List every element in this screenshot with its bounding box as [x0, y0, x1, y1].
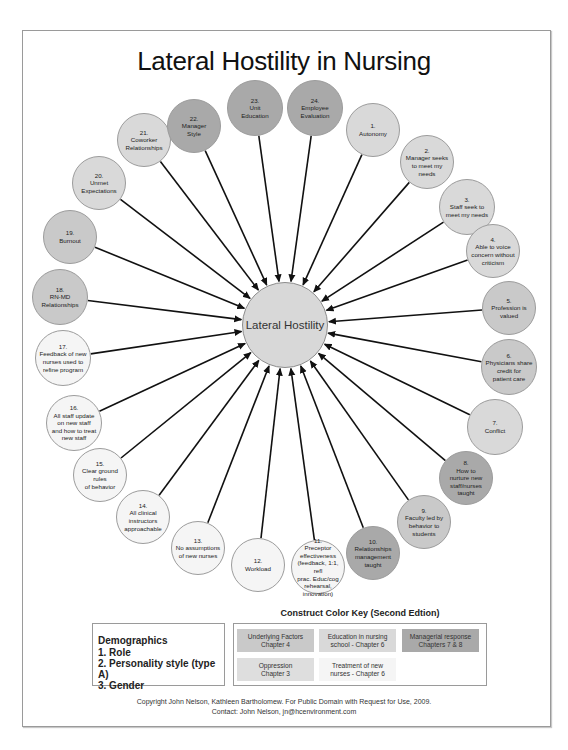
factor-node-1: 1. Autonomy [346, 103, 400, 157]
arrow-link [259, 136, 279, 282]
key-underlying-factors: Underlying Factors Chapter 4 [237, 629, 314, 652]
arrow-link [291, 369, 315, 541]
factor-node-label: 5. Profession is valued [488, 297, 529, 320]
factor-node-23: 23. Unit Education [227, 80, 283, 136]
factor-node-20: 20. Unmet Expectations [72, 156, 126, 210]
factor-node-22: 22. Manager Style [167, 99, 221, 153]
factor-node-label: 17. Feedback of new nurses used to refin… [36, 343, 89, 373]
arrow-link [205, 151, 267, 285]
demographics-item: 2. Personality style (type A) [98, 658, 224, 680]
factor-node-label: 9. Faculty led by behavior to students [402, 507, 446, 537]
arrow-link [208, 366, 269, 523]
center-node-label: Lateral Hostility [246, 319, 325, 331]
copyright-notice: Copyright John Nelson, Kathleen Bartholo… [0, 697, 568, 717]
factor-node-label: 8. How to nurture new staff/nurses taugh… [447, 459, 486, 497]
arrow-link [261, 369, 280, 539]
factor-node-label: 3. Staff seek to meet my needs [443, 196, 491, 219]
factor-node-8: 8. How to nurture new staff/nurses taugh… [439, 451, 493, 505]
arrow-link [319, 353, 446, 460]
factor-node-label: 24. Employee Evaluation [298, 97, 333, 120]
factor-node-label: 12. Workload [242, 557, 274, 572]
factor-node-18: 18. RN-MD Relationships [32, 269, 88, 325]
center-node-lateral-hostility: Lateral Hostility [242, 282, 328, 368]
factor-node-label: 16. All staff update on new staff and ho… [49, 404, 99, 442]
factor-node-label: 11. Preceptor effectiveness (feedback, 1… [292, 537, 344, 598]
factor-node-label: 10. Relationships management taught [351, 538, 394, 568]
factor-node-13: 13. No assumptions of new nurses [171, 521, 225, 575]
factor-node-label: 14. All clinical instructors approachabl… [121, 502, 165, 532]
factor-node-17: 17. Feedback of new nurses used to refin… [35, 330, 91, 386]
factor-node-5: 5. Profession is valued [482, 281, 536, 335]
demographics-heading: Demographics [98, 635, 224, 646]
arrow-link [159, 360, 259, 495]
factor-node-label: 1. Autonomy [356, 122, 390, 137]
factor-node-16: 16. All staff update on new staff and ho… [46, 395, 102, 451]
factor-node-label: 15. Clear ground rules of behavior [74, 460, 126, 490]
factor-node-label: 22. Manager Style [179, 115, 209, 138]
contact-line: Contact: John Nelson, jn@hcenvironment.c… [0, 707, 568, 717]
factor-node-label: 4. Able to voice concern without critici… [468, 236, 517, 266]
copyright-line: Copyright John Nelson, Kathleen Bartholo… [0, 697, 568, 707]
key-treatment-new-nurses: Treatment of new nurses - Chapter 6 [319, 658, 396, 681]
demographics-item: 3. Gender [98, 680, 224, 691]
arrow-link [160, 162, 258, 291]
factor-node-label: 18. RN-MD Relationships [38, 286, 81, 309]
factor-node-19: 19. Burnout [43, 210, 97, 264]
color-key-box: Underlying Factors Chapter 4 Education i… [233, 623, 487, 686]
factor-node-label: 2. Manager seeks to meet my needs [403, 147, 451, 177]
arrow-link [329, 310, 482, 322]
factor-node-label: 6. Physicians share credit for patient c… [483, 352, 536, 382]
factor-node-7: 7. Conflict [467, 399, 523, 455]
demographics-item: 1. Role [98, 647, 224, 658]
arrow-link [303, 155, 362, 285]
factor-node-21: 21. Coworker Relationships [117, 113, 171, 167]
factor-node-label: 13. No assumptions of new nurses [173, 537, 223, 560]
factor-node-15: 15. Clear ground rules of behavior [73, 448, 127, 502]
factor-node-2: 2. Manager seeks to meet my needs [400, 135, 454, 189]
factor-node-10: 10. Relationships management taught [346, 526, 400, 580]
factor-node-label: 7. Conflict [482, 419, 509, 434]
factor-node-label: 20. Unmet Expectations [78, 172, 119, 195]
factor-node-label: 21. Coworker Relationships [122, 129, 165, 152]
arrow-link [91, 332, 242, 354]
factor-node-14: 14. All clinical instructors approachabl… [116, 490, 170, 544]
arrow-link [121, 353, 251, 458]
factor-node-9: 9. Faculty led by behavior to students [397, 495, 451, 549]
key-education-nursing-school: Education in nursing school - Chapter 6 [319, 629, 396, 652]
arrow-link [88, 301, 242, 320]
factor-node-24: 24. Employee Evaluation [287, 80, 343, 136]
factor-node-12: 12. Workload [231, 538, 285, 592]
factor-node-11: 11. Preceptor effectiveness (feedback, 1… [291, 540, 345, 594]
key-oppression: Oppression Chapter 3 [237, 658, 314, 681]
arrow-link [99, 344, 245, 412]
factor-node-6: 6. Physicians share credit for patient c… [481, 339, 537, 395]
arrow-link [291, 136, 311, 282]
color-key-title: Construct Color Key (Second Edtion) [233, 608, 487, 618]
factor-node-4: 4. Able to voice concern without critici… [466, 224, 520, 278]
factor-node-label: 23. Unit Education [238, 97, 272, 120]
key-managerial-response: Managerial response Chapters 7 & 8 [402, 629, 479, 652]
factor-node-label: 19. Burnout [56, 229, 84, 244]
demographics-box: Demographics 1. Role 2. Personality styl… [92, 623, 225, 686]
